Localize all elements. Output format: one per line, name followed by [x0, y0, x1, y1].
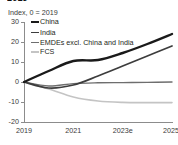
- x-tick-label-2019: 2019: [4, 127, 44, 135]
- legend-swatch-icon: [31, 51, 39, 53]
- y-tick-label-0: 0: [1, 78, 19, 86]
- legend-label: EMDEs excl. China and India: [40, 38, 133, 47]
- x-tick-label-2021: 2021: [53, 127, 93, 135]
- chart-title-text: 2019: [7, 0, 67, 3]
- series-line-emdes-excl-china-and-india: [24, 82, 172, 86]
- legend-swatch-icon: [31, 32, 39, 34]
- axis-subtitle: Index, 0 = 2019: [8, 9, 58, 17]
- legend-swatch-icon: [31, 21, 39, 23]
- legend-swatch-icon: [31, 42, 39, 44]
- y-tick-label-20: 20: [1, 38, 19, 46]
- y-tick-label--10: -10: [1, 98, 19, 106]
- y-tick-label--20: -20: [1, 118, 19, 126]
- legend-label: FCS: [40, 47, 54, 56]
- x-tick-label-2025f: 2025f: [152, 127, 178, 135]
- legend-label: India: [40, 28, 56, 37]
- y-tick-label-30: 30: [1, 18, 19, 26]
- legend-label: China: [40, 17, 59, 26]
- y-tick-label-10: 10: [1, 58, 19, 66]
- x-tick-label-2023e: 2023e: [103, 127, 143, 135]
- chart-figure: 2019 Index, 0 = 2019 3020100-10-20 20192…: [0, 0, 178, 145]
- chart-title-clipped: 2019: [7, 0, 67, 3]
- series-line-fcs: [24, 82, 172, 103]
